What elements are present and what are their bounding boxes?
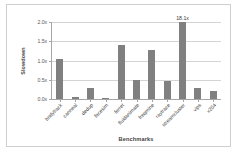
bar-slot: 18.1x xyxy=(175,22,190,99)
y-tick-label: 2.0x xyxy=(38,19,47,25)
bar-slot xyxy=(190,22,205,99)
bar-slot xyxy=(67,22,82,99)
x-tick-label: freqmine xyxy=(137,102,155,120)
chart-frame: Slowdown 0.0x0.5x1.0x1.5x2.0x 18.1x body… xyxy=(6,4,231,147)
bar-slot xyxy=(206,22,221,99)
y-tick-label: 0.0x xyxy=(38,96,47,102)
x-tick-label: facesim xyxy=(93,102,110,119)
bar[interactable]: 18.1x xyxy=(179,22,186,99)
x-tick-label: vips xyxy=(191,102,202,113)
x-tick-label: canneal xyxy=(62,102,79,119)
x-tick-label: ferret xyxy=(112,102,125,115)
bar[interactable] xyxy=(148,50,155,99)
y-tick-label: 1.0x xyxy=(38,58,47,64)
bar[interactable] xyxy=(133,80,140,99)
bar[interactable] xyxy=(56,59,63,99)
bar[interactable] xyxy=(164,81,171,99)
bar-slot xyxy=(160,22,175,99)
bar-slot xyxy=(144,22,159,99)
bar-slot xyxy=(113,22,128,99)
bar-value-annotation: 18.1x xyxy=(176,15,189,21)
bar-slot xyxy=(83,22,98,99)
x-tick-label: bodytrack xyxy=(43,102,63,122)
bar[interactable] xyxy=(87,88,94,99)
x-tick-label: x264 xyxy=(205,102,217,114)
y-axis-title: Slowdown xyxy=(20,47,26,74)
chart-figure: Slowdown 0.0x0.5x1.0x1.5x2.0x 18.1x body… xyxy=(0,0,239,153)
bar-slot xyxy=(52,22,67,99)
bar-slot xyxy=(98,22,113,99)
plot-area: 0.0x0.5x1.0x1.5x2.0x 18.1x xyxy=(51,22,221,100)
bar[interactable] xyxy=(118,45,125,99)
bar[interactable] xyxy=(210,91,217,99)
y-tick-label: 0.5x xyxy=(38,77,47,83)
x-axis-labels: bodytrackcannealdedupfacesimferretfluida… xyxy=(51,100,221,134)
bar[interactable] xyxy=(194,88,201,99)
x-axis-title: Benchmarks xyxy=(51,136,221,142)
bar-series: 18.1x xyxy=(52,22,221,99)
y-tick-label: 1.5x xyxy=(38,38,47,44)
bar-slot xyxy=(129,22,144,99)
